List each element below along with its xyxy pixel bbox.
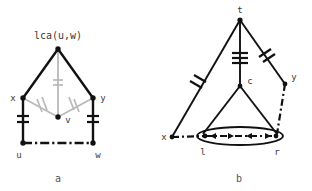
edge-lca-y <box>58 49 93 98</box>
edge-y-r <box>277 84 285 134</box>
label-w: w <box>95 150 101 160</box>
panel-b-group: t c y x l r b <box>161 5 297 184</box>
caption-b: b <box>236 173 242 184</box>
node-c <box>238 84 243 89</box>
label-v: v <box>65 115 70 125</box>
node-r <box>274 134 279 139</box>
label-x-b: x <box>161 132 167 142</box>
node-v <box>55 114 60 119</box>
label-r: r <box>274 147 280 157</box>
edge-x-u <box>17 98 29 143</box>
figure-canvas: lca(u,w) x y v u w a <box>0 0 312 191</box>
label-y: y <box>100 93 106 103</box>
label-c: c <box>247 76 252 86</box>
node-x <box>20 95 25 100</box>
node-l <box>203 134 208 139</box>
edge-y-v <box>58 97 93 117</box>
edge-lca-x <box>23 49 58 98</box>
caption-a: a <box>55 173 61 184</box>
panel-a-group: lca(u,w) x y v u w a <box>10 30 106 184</box>
edge-lca-v <box>53 49 63 117</box>
label-u: u <box>16 150 21 160</box>
figure-panel-a-and-b: lca(u,w) x y v u w a <box>0 0 312 191</box>
label-l: l <box>200 147 205 157</box>
label-y-b: y <box>291 72 297 82</box>
node-u <box>20 140 25 145</box>
node-t <box>237 17 242 22</box>
node-lca <box>55 46 60 51</box>
node-y-b <box>283 82 288 87</box>
node-x-b <box>170 135 175 140</box>
label-lca: lca(u,w) <box>34 30 82 41</box>
edge-t-x <box>172 20 240 137</box>
label-x: x <box>10 93 16 103</box>
node-w <box>90 140 95 145</box>
edge-y-w <box>87 98 99 143</box>
label-t: t <box>237 5 242 15</box>
edge-x-l <box>172 136 205 137</box>
edge-x-v <box>23 97 58 117</box>
node-y <box>90 95 95 100</box>
edge-l-r-arrows <box>205 133 276 139</box>
